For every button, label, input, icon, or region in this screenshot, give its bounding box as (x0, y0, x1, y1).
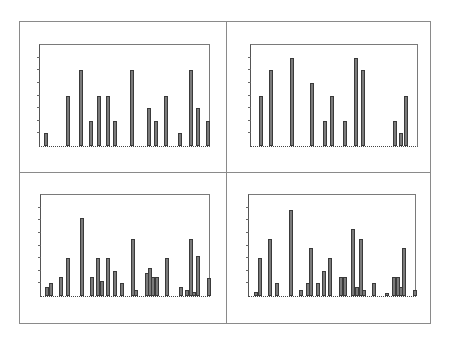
y-axis-tick (38, 245, 41, 246)
bar (113, 271, 117, 296)
y-axis-tick (37, 120, 40, 121)
bar (362, 290, 366, 296)
bar (165, 258, 169, 296)
y-axis-tick (248, 57, 251, 58)
y-axis-tick (38, 219, 41, 220)
bar (97, 96, 101, 147)
y-axis-tick (248, 95, 251, 96)
bar (351, 229, 355, 296)
bar (106, 258, 110, 296)
y-axis-tick (248, 120, 251, 121)
bar (164, 96, 168, 147)
bar (206, 121, 210, 146)
y-axis-tick (246, 282, 249, 283)
bar (106, 96, 110, 147)
y-axis-tick (38, 257, 41, 258)
y-axis-tick (37, 82, 40, 83)
bar (343, 277, 347, 296)
bar (359, 239, 363, 296)
bar (399, 133, 403, 146)
bar (131, 239, 135, 296)
bar (393, 121, 397, 146)
y-axis-tick (246, 257, 249, 258)
bar (134, 290, 138, 296)
y-axis-tick (246, 245, 249, 246)
bar (66, 258, 70, 296)
y-axis-tick (248, 107, 251, 108)
bar-chart-top-right (250, 44, 418, 147)
bar (361, 70, 365, 146)
y-axis-tick (37, 95, 40, 96)
y-axis-tick (246, 207, 249, 208)
bar (259, 96, 263, 147)
y-axis-tick (246, 270, 249, 271)
y-axis-tick (246, 232, 249, 233)
y-axis-tick (38, 207, 41, 208)
bar (89, 121, 93, 146)
bar (316, 283, 320, 296)
y-axis-tick (37, 107, 40, 108)
y-axis-tick (38, 270, 41, 271)
bar (299, 290, 303, 296)
panel-divider-horizontal (19, 172, 431, 173)
bar (275, 283, 279, 296)
bar (310, 83, 314, 146)
bar (44, 133, 48, 146)
bar (258, 258, 262, 296)
y-axis-tick (248, 82, 251, 83)
bar (147, 108, 151, 146)
bar (113, 121, 117, 146)
bar (189, 70, 193, 146)
bar (328, 258, 332, 296)
bar (189, 239, 193, 296)
bar (372, 283, 376, 296)
y-axis-tick (246, 219, 249, 220)
y-axis-tick (248, 132, 251, 133)
bar-chart-bottom-left (40, 194, 210, 297)
bar (66, 96, 70, 147)
bar (343, 121, 347, 146)
bar (179, 287, 183, 296)
y-axis-tick (248, 69, 251, 70)
bar (79, 70, 83, 146)
bar (330, 96, 334, 147)
bar (196, 256, 200, 296)
bar (155, 277, 159, 296)
y-axis-tick (38, 282, 41, 283)
bar (413, 290, 417, 296)
bar (80, 218, 84, 296)
bar (404, 96, 408, 147)
bar (59, 277, 63, 296)
bar (268, 239, 272, 296)
bar-chart-top-left (39, 44, 210, 147)
bar (402, 248, 406, 296)
bar (49, 283, 53, 296)
bar (323, 121, 327, 146)
bar (290, 58, 294, 146)
bar (90, 277, 94, 296)
y-axis-tick (38, 232, 41, 233)
bar (196, 108, 200, 146)
bar (269, 70, 273, 146)
bar (322, 271, 326, 296)
bar (309, 248, 313, 296)
bar (120, 283, 124, 296)
bar (354, 58, 358, 146)
bar (100, 281, 104, 296)
bar (207, 278, 211, 296)
bar (385, 293, 389, 296)
y-axis-tick (37, 132, 40, 133)
y-axis-tick (37, 57, 40, 58)
bar (178, 133, 182, 146)
bar (130, 70, 134, 146)
bar-chart-bottom-right (248, 194, 416, 297)
bar (289, 210, 293, 296)
bar (154, 121, 158, 146)
y-axis-tick (37, 69, 40, 70)
